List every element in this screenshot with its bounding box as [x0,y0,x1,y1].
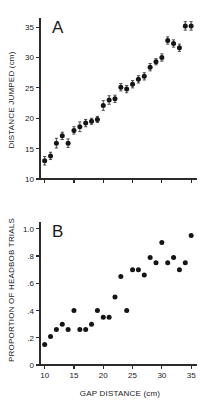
panel-a-letter: A [52,18,64,37]
panel-b-data-point [77,327,82,332]
panel-a-data-point [148,65,153,70]
panel-b-data-point [89,322,94,327]
panel-a-y-ticklabel: 20 [25,114,34,123]
panel-b-data-point [107,315,112,320]
panel-a-data-point [130,82,135,87]
panel-b-data-point [189,233,194,238]
panel-b-letter: B [52,222,63,241]
panel-a-data-point [42,158,47,163]
panel-b-y-axis-title: PROPORTION OF HEADBOB TRIALS [7,218,16,362]
panel-a-data-point [153,59,158,64]
panel-a-y-ticklabel: 15 [25,145,34,154]
panel-b-x-ticklabel: 20 [99,371,108,380]
panel-b-data-point [136,267,141,272]
panel-a-data-point [136,77,141,82]
panel-a-data-point [124,87,129,92]
panel-a-y-axis-title: DISTANCE JUMPED (cm) [7,51,16,148]
panel-b-data-point [112,294,117,299]
panel-a-data-point [171,41,176,46]
panel-a-data-point [101,103,106,108]
panel-a-data-point [77,124,82,129]
panel-a-data-point [165,38,170,43]
panel-a-data-point [60,133,65,138]
panel-a-data-point [183,23,188,28]
panel-b-data-point [71,308,76,313]
panel-b-x-ticklabel: 25 [128,371,137,380]
panel-a-data-point [54,141,59,146]
panel-b-data-point [165,260,170,265]
panel-b-x-ticklabel: 10 [40,371,49,380]
panel-a-y-ticklabel: 25 [25,84,34,93]
panel-a-data-point [112,96,117,101]
panel-a-data-point [71,128,76,133]
panel-b-data-point [42,342,47,347]
panel-a-data-point [95,117,100,122]
panel-a-y-ticklabel: 30 [25,53,34,62]
panel-b-data-point [48,334,53,339]
panel-b-y-ticklabel: .6 [27,279,34,288]
panel-b-data-point [54,327,59,332]
panel-a-y-ticklabel: 10 [25,175,34,184]
panel-b-y-ticklabel: 0 [30,361,35,370]
panel-b-y-ticklabel: .2 [27,334,34,343]
panel-b-data-point [124,308,129,313]
panel-b-data-point [153,260,158,265]
panel-b-data-point [148,255,153,260]
panel-a-data-point [107,98,112,103]
panel-b-data-point [177,267,182,272]
panel-b-data-point [171,255,176,260]
panel-a-data-point [48,153,53,158]
panel-b-data-point [142,273,147,278]
panel-a-data-point [159,55,164,60]
panel-a-data-point [142,74,147,79]
panel-b-data-point [130,267,135,272]
headbob-gap-distance-figure: A DISTANCE JUMPED (cm) 101520253035 B PR… [0,0,204,414]
panel-a-data-point [177,45,182,50]
panel-b-y-ticklabel: 1.0 [23,225,35,234]
panel-b-y-ticklabel: .8 [27,252,34,261]
panel-b-x-ticklabel: 15 [70,371,79,380]
panel-b-y-ticklabel: .4 [27,307,34,316]
panel-b-data-point [66,327,71,332]
panel-a-y-ticklabel: 35 [25,23,34,32]
panel-a-data-point [189,23,194,28]
panel-b-x-ticklabel: 30 [157,371,166,380]
panel-b-data-point [60,322,65,327]
panel-b-data-point [83,327,88,332]
panel-a-data-point [89,119,94,124]
panel-b-data-point [159,240,164,245]
panel-a-data-point [118,85,123,90]
panel-a-data-point [66,141,71,146]
panel-b-data-point [101,315,106,320]
panel-a-data-point [83,121,88,126]
panel-b-x-axis-title: GAP DISTANCE (cm) [80,389,161,398]
panel-b-x-ticklabel: 35 [187,371,196,380]
panel-b-data-point [95,308,100,313]
panel-b-data-point [183,260,188,265]
panel-b-data-point [118,274,123,279]
